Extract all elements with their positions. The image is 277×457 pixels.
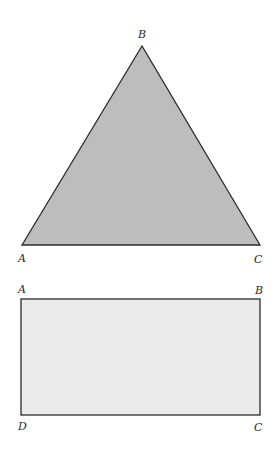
geometry-diagram: B A C A B D C xyxy=(0,0,277,457)
rectangle-label-a: A xyxy=(17,283,26,296)
rectangle-abcd xyxy=(21,299,260,415)
rectangle-label-b: B xyxy=(254,284,263,297)
triangle-label-c: C xyxy=(254,253,263,266)
rectangle-label-d: D xyxy=(17,420,27,433)
triangle-label-b: B xyxy=(137,28,146,41)
triangle-label-a: A xyxy=(17,252,26,265)
rectangle-label-c: C xyxy=(254,421,263,434)
triangle-abc xyxy=(22,46,260,245)
